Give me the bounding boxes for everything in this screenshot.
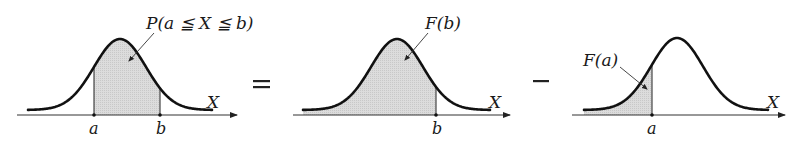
tick-label-a: a <box>647 119 657 138</box>
annotation-interval: P(a ≦ X ≦ b) <box>145 13 253 33</box>
axis-label-x: X <box>487 92 502 112</box>
tick-label-a: a <box>89 119 99 138</box>
axis-label-x: X <box>765 92 780 112</box>
axis-label-x: X <box>205 92 220 112</box>
annotation-cdf-b: F(b) <box>424 13 461 33</box>
tick-point <box>158 113 162 117</box>
equals-sign <box>253 80 270 88</box>
tick-point <box>92 113 96 117</box>
shaded-area <box>303 39 436 115</box>
shaded-area <box>584 65 652 115</box>
panel-interval <box>17 33 237 117</box>
tick-point <box>434 113 438 117</box>
panel-cdf-b <box>293 33 510 117</box>
tick-point <box>650 113 654 117</box>
annotation-cdf-a: F(a) <box>582 50 618 70</box>
minus-sign <box>533 80 549 82</box>
tick-label-b: b <box>432 119 442 138</box>
tick-label-b: b <box>156 119 166 138</box>
diagram-canvas: P(a ≦ X ≦ b) X a b F(b) X b F(a) X a <box>0 0 793 155</box>
density-curve <box>584 38 768 110</box>
